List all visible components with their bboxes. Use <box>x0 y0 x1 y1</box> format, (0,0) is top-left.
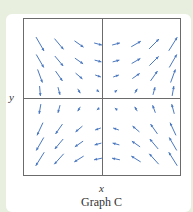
direction-arrow <box>172 86 175 96</box>
direction-arrow <box>78 89 81 93</box>
direction-arrow <box>132 141 140 147</box>
direction-arrow <box>113 59 120 62</box>
direction-arrow <box>113 142 120 145</box>
direction-arrow <box>132 59 141 64</box>
direction-arrow <box>95 60 102 63</box>
direction-arrow <box>36 55 44 68</box>
direction-arrow <box>95 143 102 146</box>
direction-arrow <box>56 124 63 134</box>
direction-arrow <box>132 73 139 78</box>
direction-arrow <box>54 154 63 164</box>
direction-arrow <box>149 154 158 164</box>
direction-arrow <box>97 107 100 110</box>
direction-arrow <box>55 39 64 50</box>
direction-arrow <box>95 75 101 78</box>
direction-arrow <box>133 126 140 132</box>
direction-arrow <box>57 105 60 113</box>
direction-arrow <box>151 71 158 81</box>
direction-arrow <box>78 107 81 111</box>
direction-arrow <box>94 43 102 46</box>
direction-arrow <box>94 158 102 161</box>
direction-arrow <box>131 156 140 162</box>
direction-arrow <box>75 141 83 147</box>
direction-arrow <box>37 123 43 136</box>
direction-arrow <box>36 152 44 166</box>
direction-arrow <box>169 138 177 151</box>
direction-arrow <box>135 107 138 111</box>
direction-arrow <box>38 69 43 82</box>
direction-arrow <box>115 108 118 111</box>
figure-caption: Graph C <box>0 195 193 210</box>
direction-arrow <box>55 139 63 149</box>
direction-arrow <box>150 139 158 149</box>
direction-arrow <box>56 71 63 81</box>
direction-arrow <box>74 156 83 162</box>
direction-arrow <box>39 86 42 96</box>
direction-arrow <box>149 39 159 49</box>
direction-arrow <box>58 87 61 95</box>
direction-arrow <box>170 123 176 136</box>
direction-arrow <box>75 58 83 64</box>
direction-arrow <box>135 89 138 93</box>
direction-arrow <box>169 37 177 51</box>
direction-arrow <box>169 55 177 68</box>
direction-arrow <box>113 75 119 78</box>
direction-arrow <box>114 90 117 93</box>
direction-arrow <box>169 152 177 166</box>
slope-field-plot <box>23 18 181 176</box>
direction-arrow <box>171 69 176 82</box>
direction-arrow <box>131 41 141 47</box>
direction-arrow <box>149 56 158 65</box>
direction-field-arrows <box>24 19 182 177</box>
direction-arrow <box>76 73 83 79</box>
x-axis-label: x <box>99 182 104 194</box>
y-axis-label: y <box>9 91 14 103</box>
direction-arrow <box>38 104 41 114</box>
direction-arrow <box>96 89 99 92</box>
direction-arrow <box>113 128 119 131</box>
direction-arrow <box>55 56 63 66</box>
direction-arrow <box>36 37 44 51</box>
direction-arrow <box>74 41 83 47</box>
direction-arrow <box>151 124 158 134</box>
direction-arrow <box>153 87 156 95</box>
direction-arrow <box>95 128 101 131</box>
direction-arrow <box>112 42 120 45</box>
direction-arrow <box>112 157 120 160</box>
direction-arrow <box>152 105 155 113</box>
direction-arrow <box>171 104 174 114</box>
direction-arrow <box>76 126 83 132</box>
direction-arrow <box>36 138 44 151</box>
